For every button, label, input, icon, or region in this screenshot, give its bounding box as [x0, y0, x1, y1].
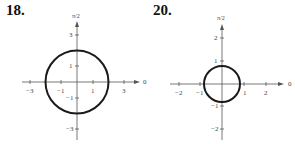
- svg-text:1: 1: [91, 87, 95, 95]
- svg-text:0: 0: [143, 78, 147, 86]
- figure-20: 20. −2 −1 1 2 2 1 −1 −2 0 π/2: [148, 0, 295, 144]
- svg-text:−1: −1: [196, 89, 204, 97]
- svg-text:1: 1: [243, 89, 247, 97]
- svg-text:−3: −3: [66, 125, 74, 133]
- svg-text:1: 1: [69, 62, 73, 70]
- svg-text:−2: −2: [211, 125, 219, 133]
- svg-text:2: 2: [214, 34, 218, 42]
- axis-arrow-icon: [220, 24, 224, 30]
- svg-text:3: 3: [69, 31, 73, 39]
- svg-text:2: 2: [264, 89, 268, 97]
- polar-graph: −2 −1 1 2 2 1 −1 −2 0 π/2: [148, 0, 295, 144]
- svg-text:π/2: π/2: [72, 13, 80, 19]
- polar-graph: −3 −1 1 3 3 1 −1 −3 0 π/2: [0, 0, 147, 144]
- svg-text:1: 1: [214, 57, 218, 65]
- svg-text:0: 0: [288, 80, 292, 88]
- svg-text:−1: −1: [211, 102, 219, 110]
- svg-text:3: 3: [122, 87, 126, 95]
- axis-arrow-icon: [278, 82, 284, 86]
- svg-text:−3: −3: [26, 87, 34, 95]
- axis-arrow-icon: [134, 80, 140, 84]
- svg-text:−1: −1: [57, 87, 65, 95]
- svg-text:−2: −2: [175, 89, 183, 97]
- figure-18: 18. −3 −1 1 3 3 1 −1 −3 0 π/2: [0, 0, 147, 144]
- svg-text:π/2: π/2: [217, 15, 225, 21]
- svg-text:−1: −1: [66, 94, 74, 102]
- axis-arrow-icon: [75, 21, 79, 27]
